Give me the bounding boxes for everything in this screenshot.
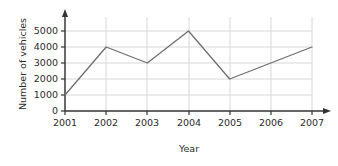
x-axis-title: Year <box>178 143 199 154</box>
x-tick-label: 2001 <box>53 117 77 128</box>
y-tick-label: 5000 <box>34 25 58 36</box>
x-tick-label: 2007 <box>300 117 324 128</box>
y-tick-label: 1000 <box>34 89 58 100</box>
x-tick-label: 2003 <box>135 117 159 128</box>
x-tick-label: 2006 <box>259 117 283 128</box>
line-chart: 5000 4000 3000 2000 1000 0 2001 2002 200… <box>0 0 338 166</box>
x-tick-label: 2004 <box>177 117 201 128</box>
x-tick-label: 2005 <box>218 117 242 128</box>
chart-canvas: 5000 4000 3000 2000 1000 0 2001 2002 200… <box>0 0 338 166</box>
y-tick-label: 2000 <box>34 73 58 84</box>
y-tick-label: 3000 <box>34 57 58 68</box>
y-tick-label: 4000 <box>34 41 58 52</box>
y-axis-title: Number of vehicles <box>17 18 28 110</box>
y-tick-label: 0 <box>52 105 58 116</box>
x-tick-label: 2002 <box>94 117 118 128</box>
